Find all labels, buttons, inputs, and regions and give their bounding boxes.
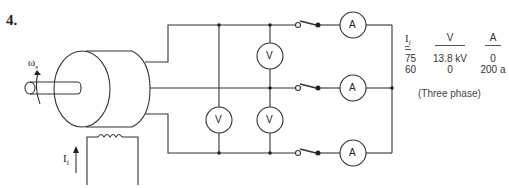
cell-v: 0: [427, 64, 473, 75]
omega-subscript: s: [35, 63, 38, 71]
header-if: If: [405, 32, 427, 50]
table-header: If V A: [405, 32, 509, 50]
cell-a: 0: [473, 53, 509, 64]
field-current-label: If: [63, 152, 69, 167]
header-v: V: [427, 32, 473, 50]
header-a-text: A: [485, 32, 502, 46]
header-v-text: V: [435, 32, 466, 46]
cell-if: 60: [405, 64, 427, 75]
header-if-sub: f: [409, 40, 411, 46]
header-a: A: [473, 32, 509, 50]
table-row: 75 13.8 kV 0: [405, 53, 509, 64]
cell-v: 13.8 kV: [427, 53, 473, 64]
generator-drum: [54, 51, 150, 127]
ammeter-label: A: [349, 147, 356, 158]
ammeter-label: A: [349, 19, 356, 30]
ammeter-label: A: [349, 82, 356, 93]
voltmeter-label: V: [215, 114, 222, 125]
field-winding: [87, 135, 138, 186]
shaft: [25, 82, 81, 94]
table-row: 60 0 200 a: [405, 64, 509, 75]
voltmeter-label: V: [266, 50, 273, 61]
test-data-table: If V A 75 13.8 kV 0 60 0 200 a: [405, 32, 509, 75]
rotation-arrow: [36, 72, 40, 104]
field-current-subscript: f: [67, 159, 69, 167]
cell-a: 200 a: [473, 64, 509, 75]
omega-label: ωs: [28, 56, 38, 71]
table-note: (Three phase): [418, 88, 481, 99]
voltmeter-label: V: [266, 114, 273, 125]
cell-if: 75: [405, 53, 427, 64]
